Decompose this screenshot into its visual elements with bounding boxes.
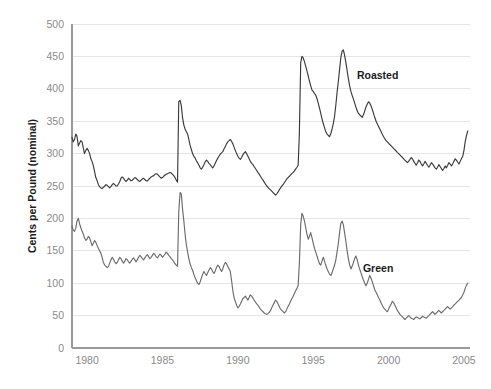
- series-annotations-group: RoastedGreen: [357, 69, 398, 274]
- x-tick-label-2005: 2005: [452, 354, 476, 366]
- x-tick-label-2000: 2000: [377, 354, 401, 366]
- y-tick-label-200: 200: [46, 212, 64, 224]
- y-tick-labels-group: 050100150200250300350400450500: [46, 18, 64, 354]
- chart-svg: 050100150200250300350400450500 198019851…: [0, 0, 491, 389]
- y-tick-label-150: 150: [46, 244, 64, 256]
- x-tick-label-1990: 1990: [226, 354, 250, 366]
- y-tick-label-500: 500: [46, 18, 64, 30]
- y-tick-label-250: 250: [46, 180, 64, 192]
- x-tick-labels-group: 198019851990199520002005: [75, 354, 475, 366]
- series-line-roasted: [72, 50, 468, 195]
- series-annotation-roasted: Roasted: [357, 69, 398, 81]
- x-tick-label-1980: 1980: [75, 354, 99, 366]
- gridlines-group: [72, 24, 470, 316]
- x-tick-label-1985: 1985: [151, 354, 175, 366]
- y-axis-title: Cents per Pound (nominal): [26, 119, 38, 253]
- y-tick-label-400: 400: [46, 82, 64, 94]
- series-line-green: [72, 192, 468, 319]
- y-tick-label-0: 0: [58, 342, 64, 354]
- series-annotation-green: Green: [363, 262, 393, 274]
- y-tick-label-300: 300: [46, 147, 64, 159]
- x-tick-label-1995: 1995: [302, 354, 326, 366]
- series-paths-group: [72, 50, 468, 320]
- y-tick-label-350: 350: [46, 115, 64, 127]
- y-tick-label-100: 100: [46, 277, 64, 289]
- y-tick-label-450: 450: [46, 50, 64, 62]
- coffee-price-chart: 050100150200250300350400450500 198019851…: [0, 0, 491, 389]
- y-tick-label-50: 50: [52, 309, 64, 321]
